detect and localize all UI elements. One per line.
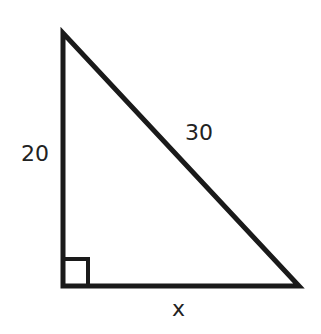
right-angle-marker <box>63 259 88 286</box>
horizontal-leg-label: x <box>172 296 185 321</box>
hypotenuse-label: 30 <box>185 120 213 145</box>
triangle-diagram: 20 30 x <box>0 0 321 334</box>
triangle <box>63 33 299 286</box>
vertical-leg-label: 20 <box>21 141 49 166</box>
